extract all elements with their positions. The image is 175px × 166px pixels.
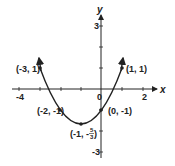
svg-text:): ) xyxy=(94,129,97,139)
svg-text:(-1, -: (-1, - xyxy=(70,129,89,139)
x-axis-label: x xyxy=(159,84,166,95)
tick-label-2: 2 xyxy=(142,92,147,102)
point-label-m3-1: (-3, 1) xyxy=(16,64,40,74)
tick-label-neg3: -3 xyxy=(92,147,100,157)
y-axis-label: y xyxy=(96,4,103,15)
point-label-m2-m1: (-2, -1) xyxy=(37,106,64,116)
point-label-1-1: (1, 1) xyxy=(126,64,147,74)
tick-label-3: 3 xyxy=(94,21,99,31)
tick-label-neg4: -4 xyxy=(16,92,24,102)
data-points xyxy=(38,66,124,126)
tick-label-0: 0 xyxy=(97,92,102,102)
parabola-graph: x y -4 0 2 3 -3 (-3, 1) (-2, -1) (0, -1)… xyxy=(0,0,175,166)
point-label-0-m1: (0, -1) xyxy=(108,106,132,116)
point-label-vertex: (-1, - 5 3 ) xyxy=(70,127,97,140)
